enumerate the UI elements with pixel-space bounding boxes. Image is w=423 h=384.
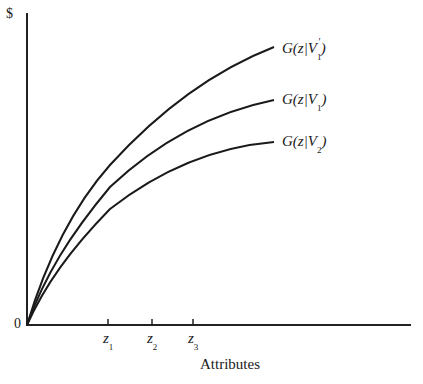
label-main: G(z|V [282, 133, 317, 149]
label-sub: 1 [317, 52, 322, 62]
tick-z1-sub: 1 [109, 342, 114, 352]
tick-z3-sub: 3 [194, 342, 199, 352]
label-sub: 2 [317, 145, 322, 155]
tick-label-z2: z2 [147, 330, 157, 349]
x-axis-title: Attributes [200, 356, 260, 373]
label-sup: ′ [318, 36, 320, 47]
label-close: ) [321, 133, 326, 149]
label-main: G(z|V [282, 91, 317, 107]
curve-label-g-v2: G(z|V2) [282, 133, 326, 152]
tick-z2-sub: 2 [153, 342, 158, 352]
tick-label-z3: z3 [188, 330, 198, 349]
curve-g-v1 [27, 100, 274, 325]
curve-label-g-v1-prime: G(z|V1′) [282, 38, 326, 59]
curves [27, 47, 274, 325]
origin-label: 0 [14, 316, 21, 332]
label-close: ) [321, 91, 326, 107]
label-close: ) [321, 40, 326, 56]
label-main: G(z|V [282, 40, 317, 56]
curve-g-v1-prime [27, 47, 274, 325]
y-axis-label: $ [6, 6, 13, 22]
tick-z2-text: z [147, 330, 153, 346]
tick-z3-text: z [188, 330, 194, 346]
chart-canvas [0, 0, 423, 384]
tick-label-z1: z1 [103, 330, 113, 349]
tick-z1-text: z [103, 330, 109, 346]
curve-label-g-v1: G(z|V1) [282, 91, 326, 110]
label-sub: 1 [317, 103, 322, 113]
